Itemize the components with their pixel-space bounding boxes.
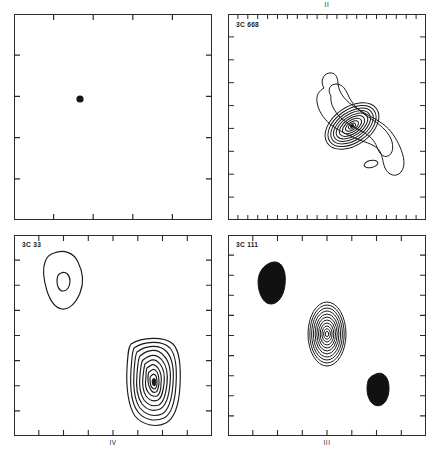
panel-ii-ticks (228, 14, 426, 220)
core-level-7 (319, 320, 336, 348)
unresolved-core-point (76, 95, 83, 102)
panel-iv-numeral: IV (14, 440, 212, 446)
north-lobe-outer (44, 251, 83, 309)
panel-ii-plot (228, 14, 426, 220)
core-level-4 (313, 311, 340, 357)
panel-iv-plot (14, 235, 212, 436)
panel-iii-numeral: III (228, 440, 426, 446)
core-level-10 (324, 329, 331, 339)
panel-iv: 3C 33 (14, 235, 212, 436)
north-lobe-inner (57, 272, 70, 291)
panel-i-ticks (14, 14, 212, 220)
panel-i (14, 14, 212, 220)
north-east-lobe (258, 262, 285, 304)
core-level-3 (312, 308, 343, 360)
panel-iii: 3C 111 (228, 235, 426, 436)
panel-ii-numeral: II (228, 2, 426, 8)
source-label-3c33: 3C 33 (22, 242, 41, 249)
panel-iii-plot (228, 235, 426, 436)
hotspot-peak (152, 379, 155, 386)
source-label-3c111: 3C 111 (236, 242, 258, 249)
south-west-lobe (367, 373, 389, 406)
panel-iii-ticks (228, 235, 426, 436)
central-core-nest (308, 302, 346, 366)
secondary-knot (363, 159, 378, 169)
core-level-11 (325, 331, 328, 336)
core-nest (317, 93, 388, 159)
3c111-contours (258, 262, 389, 406)
panel-ii: 3C 668 (228, 14, 426, 220)
source-label-3c668: 3C 668 (236, 22, 259, 29)
panel-i-plot (14, 14, 212, 220)
south-hotspot-nest (127, 338, 181, 425)
3c33-contours (44, 251, 181, 425)
contour-map-figure: II 3C 668 (0, 0, 439, 456)
3c668-contours (317, 73, 404, 175)
